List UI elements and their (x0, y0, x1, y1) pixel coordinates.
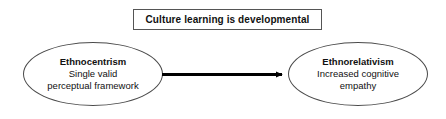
node-ethnocentrism-line-1: Single valid (69, 68, 118, 80)
diagram-canvas: Culture learning is developmental Ethnoc… (0, 0, 446, 119)
node-ethnorelativism-title: Ethnorelativism (322, 56, 393, 68)
node-ethnocentrism: Ethnocentrism Single valid perceptual fr… (23, 42, 163, 106)
title-box: Culture learning is developmental (133, 9, 322, 30)
node-ethnocentrism-line-2: perceptual framework (47, 80, 138, 92)
title-box-label: Culture learning is developmental (146, 14, 310, 25)
node-ethnorelativism: Ethnorelativism Increased cognitive empa… (288, 42, 428, 106)
node-ethnorelativism-line-1: Increased cognitive (317, 68, 399, 80)
node-ethnorelativism-line-2: empathy (340, 80, 376, 92)
node-ethnocentrism-title: Ethnocentrism (60, 56, 127, 68)
